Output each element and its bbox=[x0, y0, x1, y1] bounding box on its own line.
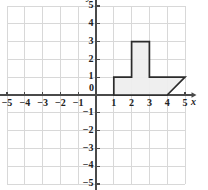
y-tick-label: 4 bbox=[89, 17, 94, 28]
x-tick-label: 3 bbox=[147, 97, 152, 108]
y-tick-label: −5 bbox=[83, 177, 94, 188]
plot-svg: −5−4−3−2−112345−5−4−3−2−1123450xy bbox=[0, 0, 208, 190]
x-tick-label: 4 bbox=[165, 97, 170, 108]
y-tick-label: −3 bbox=[83, 142, 94, 153]
x-axis-label: x bbox=[190, 96, 196, 107]
y-tick-label: −1 bbox=[83, 106, 94, 117]
x-tick-label: −5 bbox=[2, 97, 13, 108]
x-tick-label: −2 bbox=[55, 97, 66, 108]
x-tick-label: −3 bbox=[37, 97, 48, 108]
y-tick-label: 3 bbox=[89, 35, 94, 46]
x-tick-label: 1 bbox=[111, 97, 116, 108]
shaded-polygon bbox=[114, 42, 185, 95]
x-tick-label: −4 bbox=[19, 97, 30, 108]
x-tick-label: 2 bbox=[129, 97, 134, 108]
y-tick-label: 2 bbox=[89, 53, 94, 64]
shaded-polygon bbox=[114, 42, 185, 95]
y-tick-label: −4 bbox=[83, 159, 94, 170]
coordinate-plane-figure: −5−4−3−2−112345−5−4−3−2−1123450xy bbox=[0, 0, 208, 190]
y-tick-label: 1 bbox=[89, 70, 94, 81]
y-tick-label: −2 bbox=[83, 124, 94, 135]
x-tick-label: 5 bbox=[183, 97, 188, 108]
y-tick-label: 5 bbox=[89, 0, 94, 10]
y-axis-label: y bbox=[86, 0, 92, 2]
origin-label: 0 bbox=[89, 82, 94, 93]
